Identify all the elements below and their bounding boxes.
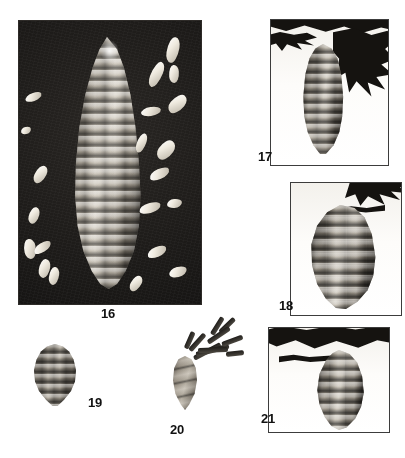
figure-label-19: 19 — [88, 396, 102, 409]
figure-panel-16 — [19, 21, 201, 304]
figure-label-17: 17 — [258, 150, 272, 163]
figure-panel-21 — [268, 327, 390, 433]
cone-specimen-16 — [65, 37, 149, 289]
figure-label-16: 16 — [101, 307, 115, 320]
figure-panel-18 — [290, 182, 402, 316]
cone-specimen-20 — [168, 326, 246, 412]
figure-label-20: 20 — [170, 423, 184, 436]
figure-panel-17 — [270, 19, 389, 166]
cone-scales-texture — [170, 356, 200, 410]
cone-shading — [65, 37, 149, 289]
twig-needle — [226, 350, 244, 357]
botanical-plate: 16 17 18 19 — [0, 0, 405, 458]
cone-tip-highlight — [100, 40, 118, 63]
cone-specimen-19 — [30, 344, 80, 406]
figure-label-18: 18 — [279, 299, 293, 312]
figure-label-21: 21 — [261, 412, 275, 425]
cone-scales-texture — [30, 344, 80, 406]
twig-needle — [198, 347, 228, 353]
twig-needle — [221, 335, 243, 347]
